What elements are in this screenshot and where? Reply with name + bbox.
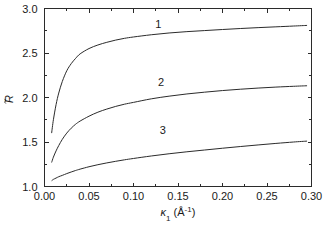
y-tick-label: 2.0 — [22, 92, 37, 104]
x-tick-label: 0.15 — [167, 190, 188, 202]
y-axis-title-tilde-icon — [5, 99, 6, 104]
chart-plot-area: 0.000.050.100.150.200.250.301.01.52.02.5… — [0, 0, 329, 231]
y-tick-label: 2.5 — [22, 47, 37, 59]
curve-label-2: 2 — [158, 76, 164, 88]
data-curve-3 — [52, 141, 307, 181]
x-tick-label: 0.05 — [78, 190, 99, 202]
x-tick-label: 0.20 — [212, 190, 233, 202]
x-axis-title: κ1 (Å-1) — [161, 205, 196, 223]
y-tick-label: 1.5 — [22, 136, 37, 148]
data-curve-2 — [52, 86, 307, 163]
curve-label-1: 1 — [155, 18, 161, 30]
data-curve-1 — [52, 25, 307, 133]
x-tick-label: 0.25 — [256, 190, 277, 202]
y-tick-label: 3.0 — [22, 3, 37, 15]
x-tick-label: 0.30 — [301, 190, 322, 202]
curve-label-3: 3 — [160, 124, 166, 136]
chart-figure: 0.000.050.100.150.200.250.301.01.52.02.5… — [0, 0, 329, 231]
y-tick-label: 1.0 — [22, 181, 37, 193]
y-axis-title: R — [3, 95, 15, 104]
x-tick-label: 0.10 — [123, 190, 144, 202]
plot-frame — [45, 9, 312, 187]
